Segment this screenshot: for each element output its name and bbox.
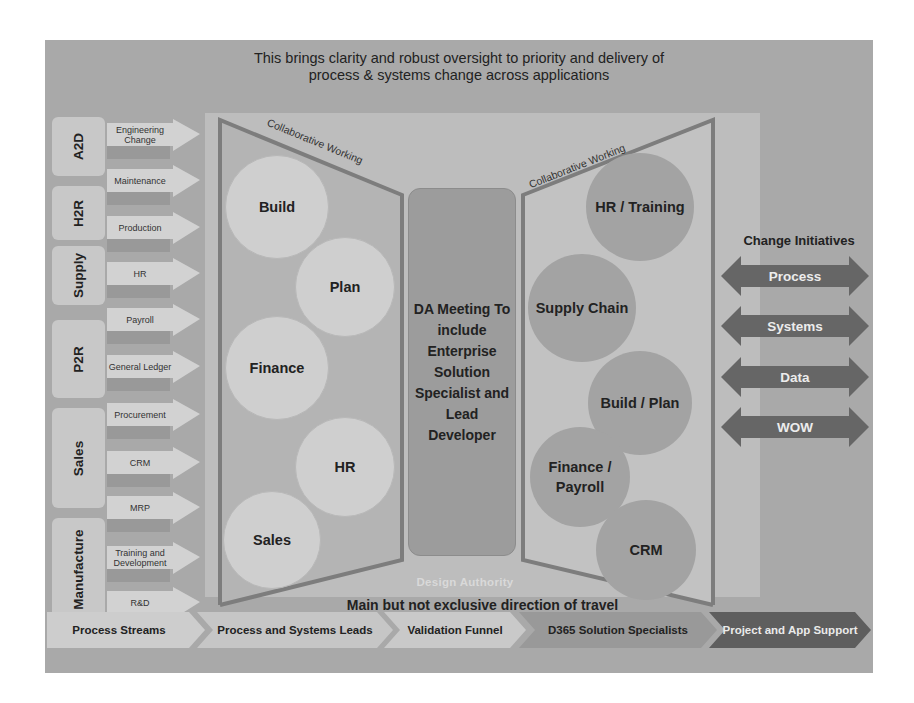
initiative-process: Process bbox=[721, 256, 869, 296]
stage-process-streams: Process Streams bbox=[47, 612, 205, 648]
circle-plan: Plan bbox=[295, 237, 395, 337]
circle-label: HR / Training bbox=[595, 197, 684, 217]
stage-label: Validation Funnel bbox=[384, 612, 526, 648]
circle-label: Plan bbox=[330, 277, 361, 297]
direction-of-travel-label: Main but not exclusive direction of trav… bbox=[205, 597, 760, 613]
circle-label: Build / Plan bbox=[601, 393, 680, 413]
circle-sales: Sales bbox=[223, 491, 321, 589]
circle-finance: Finance bbox=[225, 316, 329, 420]
circle-crm: CRM bbox=[596, 500, 696, 600]
circle-label: Finance bbox=[250, 358, 305, 378]
circle-label: Supply Chain bbox=[536, 298, 629, 318]
change-initiatives-title: Change Initiatives bbox=[725, 233, 873, 248]
circle-build: Build bbox=[225, 155, 329, 259]
initiative-label: WOW bbox=[721, 407, 869, 447]
initiative-wow: WOW bbox=[721, 407, 869, 447]
initiative-label: Process bbox=[721, 256, 869, 296]
circle-label: HR bbox=[335, 457, 356, 477]
stage-project-app-support: Project and App Support bbox=[709, 612, 871, 648]
stage-process-systems-leads: Process and Systems Leads bbox=[197, 612, 393, 648]
stage-label: Project and App Support bbox=[709, 612, 871, 648]
stage-validation-funnel: Validation Funnel bbox=[384, 612, 526, 648]
circle-hr-training: HR / Training bbox=[586, 153, 694, 261]
initiative-label: Data bbox=[721, 357, 869, 397]
initiative-systems: Systems bbox=[721, 306, 869, 346]
stage-label: Process Streams bbox=[47, 612, 205, 648]
circle-hr: HR bbox=[295, 417, 395, 517]
stage-label: D365 Solution Specialists bbox=[519, 612, 717, 648]
initiative-data: Data bbox=[721, 357, 869, 397]
design-authority-label: Design Authority bbox=[400, 576, 530, 588]
process-funnel-diagram: This brings clarity and robust oversight… bbox=[45, 40, 873, 673]
circle-label: Build bbox=[259, 197, 295, 217]
initiative-label: Systems bbox=[721, 306, 869, 346]
stage-d365-solution-specialists: D365 Solution Specialists bbox=[519, 612, 717, 648]
circle-supply-chain: Supply Chain bbox=[528, 254, 636, 362]
da-meeting-box: DA Meeting To include Enterprise Solutio… bbox=[408, 188, 516, 556]
circle-label: CRM bbox=[629, 540, 662, 560]
circle-label: Finance / Payroll bbox=[530, 457, 630, 497]
stage-label: Process and Systems Leads bbox=[197, 612, 393, 648]
circle-label: Sales bbox=[253, 530, 291, 550]
